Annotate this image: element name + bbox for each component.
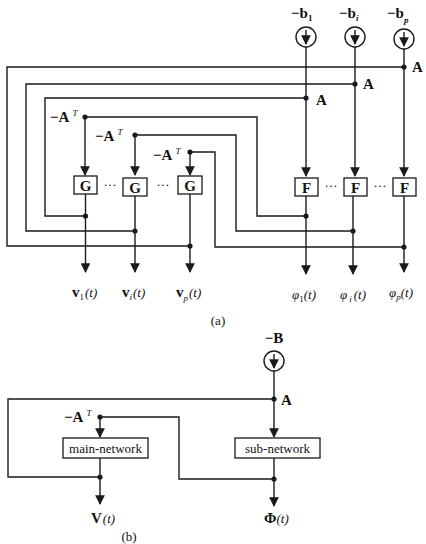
ellipsis: ···: [104, 177, 117, 192]
output-phi1: φ1(t): [292, 287, 316, 304]
source-label-b1: −b1: [291, 5, 313, 23]
output-phii: φi(t): [340, 287, 366, 304]
loop-at-p: [190, 152, 404, 247]
source-label-bp: −bp: [387, 5, 409, 25]
ellipsis: ···: [157, 177, 170, 192]
source-label-bi: −bi: [339, 5, 359, 23]
output-phip: φp(t): [389, 285, 413, 302]
neg-at-label: −AT: [153, 146, 181, 163]
diagram-a: −b1 −bi −bp A A A −AT: [7, 5, 423, 328]
neg-at-label: −AT: [64, 408, 92, 425]
f-block-label: F: [400, 180, 409, 196]
g-block-label: G: [184, 178, 196, 194]
diagram-b: −B A −AT main-network sub-network V(t) Φ…: [8, 330, 320, 544]
main-network-label: main-network: [69, 441, 142, 456]
g-block-label: G: [80, 178, 92, 194]
a-label: A: [316, 92, 327, 108]
source-label-B: −B: [265, 330, 284, 346]
f-block-label: F: [302, 180, 311, 196]
output-vp: vp(t): [176, 284, 201, 303]
output-V: V(t): [91, 510, 115, 526]
loop-a-outer: [7, 67, 404, 246]
caption-b: (b): [121, 529, 136, 544]
a-label: A: [363, 76, 374, 92]
sub-network-label: sub-network: [245, 441, 310, 456]
current-source-icon: [264, 351, 284, 371]
g-block-label: G: [129, 180, 141, 196]
caption-a: (a): [211, 313, 225, 328]
current-source-icon: [394, 29, 414, 49]
output-vi: vi(t): [122, 284, 145, 302]
network-diagram: −b1 −bi −bp A A A −AT: [0, 0, 426, 544]
output-Phi: Φ(t): [264, 510, 289, 526]
output-v1: v1(t): [72, 284, 97, 302]
a-label: A: [412, 59, 423, 75]
ellipsis: ···: [325, 178, 338, 193]
neg-at-label: −AT: [95, 127, 123, 144]
current-source-icon: [296, 27, 316, 47]
ellipsis: ···: [374, 178, 387, 193]
a-label: A: [281, 392, 292, 408]
current-source-icon: [345, 27, 365, 47]
f-block-label: F: [351, 180, 360, 196]
neg-at-label: −AT: [50, 108, 78, 125]
